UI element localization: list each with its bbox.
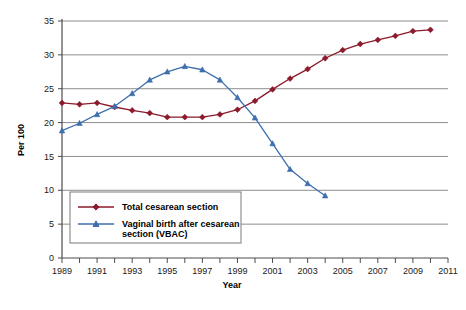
- y-tick-label-5: 5: [49, 219, 54, 229]
- x-tick-label-1999: 1999: [227, 266, 247, 276]
- y-tick-label-20: 20: [44, 118, 54, 128]
- y-tick-label-35: 35: [44, 16, 54, 26]
- x-tick-label-2003: 2003: [298, 266, 318, 276]
- x-tick-label-2005: 2005: [333, 266, 353, 276]
- line-chart: 1989199119931995199719992001200320052007…: [0, 0, 466, 310]
- y-tick-label-15: 15: [44, 152, 54, 162]
- x-tick-label-1991: 1991: [87, 266, 107, 276]
- x-tick-label-1993: 1993: [122, 266, 142, 276]
- y-axis-title: Per 100: [16, 124, 26, 156]
- x-tick-label-2007: 2007: [368, 266, 388, 276]
- legend-label-vbac-line2: section (VBAC): [122, 229, 188, 239]
- legend-label-vbac-line1: Vaginal birth after cesarean: [122, 219, 240, 229]
- x-tick-label-1997: 1997: [192, 266, 212, 276]
- x-tick-label-2009: 2009: [403, 266, 423, 276]
- y-axis-tick-labels: 05101520253035: [44, 16, 54, 263]
- y-tick-label-25: 25: [44, 84, 54, 94]
- x-tick-label-2001: 2001: [263, 266, 283, 276]
- x-tick-label-1995: 1995: [157, 266, 177, 276]
- x-tick-label-2011: 2011: [438, 266, 457, 276]
- x-tick-label-1989: 1989: [52, 266, 72, 276]
- y-tick-label-0: 0: [49, 253, 54, 263]
- x-axis-tick-labels: 1989199119931995199719992001200320052007…: [52, 266, 458, 276]
- chart-legend: Total cesarean section Vaginal birth aft…: [70, 192, 241, 243]
- chart-container: 1989199119931995199719992001200320052007…: [0, 0, 466, 310]
- y-tick-label-30: 30: [44, 50, 54, 60]
- legend-label-cesarean: Total cesarean section: [122, 202, 218, 212]
- x-axis-title: Year: [222, 280, 242, 290]
- x-axis-ticks: [62, 258, 448, 263]
- y-tick-label-10: 10: [44, 185, 54, 195]
